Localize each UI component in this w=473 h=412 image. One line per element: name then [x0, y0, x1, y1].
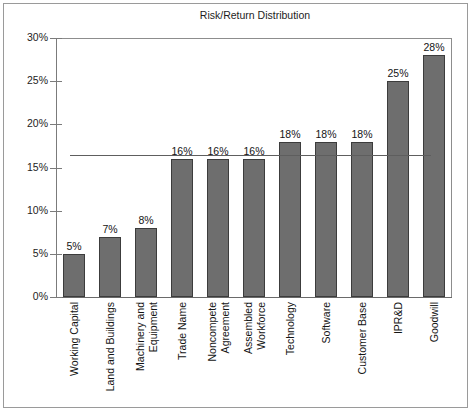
category-label: Software — [308, 302, 344, 406]
y-tick-label-text: 0% — [2, 291, 48, 302]
y-tick-label-text: 30% — [2, 32, 48, 43]
bar — [351, 142, 373, 297]
category-label: Trade Name — [164, 302, 200, 406]
bar — [135, 228, 157, 297]
bar — [423, 55, 445, 297]
category-label: Machinery andEquipment — [128, 302, 164, 406]
y-tick-mark — [50, 124, 62, 125]
y-tick-label-text: 10% — [2, 205, 48, 216]
category-label: NoncompeteAgreement — [200, 302, 236, 406]
bar-value-label: 8% — [122, 214, 170, 226]
bar-value-label: 28% — [410, 41, 458, 53]
y-tick-label: 20% — [0, 118, 48, 129]
y-tick-label: 5% — [0, 248, 48, 259]
category-label-text: Trade Name — [176, 302, 189, 360]
y-tick-label-text: 15% — [2, 162, 48, 173]
y-tick-label: 15% — [0, 162, 48, 173]
category-label: Customer Base — [344, 302, 380, 406]
category-label-text: Land and Buildings — [104, 302, 117, 391]
bar-value-label: 18% — [338, 128, 386, 140]
category-label: Working Capital — [56, 302, 92, 406]
y-tick-label: 10% — [0, 205, 48, 216]
y-tick-label: 30% — [0, 32, 48, 43]
category-label: AssembledWorkforce — [236, 302, 272, 406]
category-label: Goodwill — [416, 302, 452, 406]
bar-value-label: 5% — [50, 240, 98, 252]
y-tick-label-text: 25% — [2, 75, 48, 86]
bar-value-label: 25% — [374, 67, 422, 79]
y-tick-label-text: 20% — [2, 118, 48, 129]
y-tick-mark — [50, 211, 62, 212]
bar — [207, 159, 229, 297]
category-label: IPR&D — [380, 302, 416, 406]
category-label: Land and Buildings — [92, 302, 128, 406]
category-label-text: IPR&D — [392, 302, 405, 334]
category-label-text: Working Capital — [68, 302, 81, 376]
x-axis — [56, 297, 452, 298]
average-return-line — [70, 155, 431, 156]
y-tick-mark — [50, 168, 62, 169]
y-tick-label: 0% — [0, 291, 48, 302]
chart-title: Risk/Return Distribution — [60, 9, 450, 22]
bar — [279, 142, 301, 297]
category-label-text: Machinery andEquipment — [134, 302, 159, 371]
y-tick-label: 25% — [0, 75, 48, 86]
category-label-text: Goodwill — [428, 302, 441, 342]
bar — [171, 159, 193, 297]
bar — [99, 237, 121, 297]
bar — [63, 254, 85, 297]
category-label: Technology — [272, 302, 308, 406]
category-label-text: Technology — [284, 302, 297, 355]
chart-figure: Risk/Return Distribution 30%25%20%15%10%… — [0, 0, 473, 412]
bar — [387, 81, 409, 297]
y-tick-mark — [50, 297, 62, 298]
category-label-text: Customer Base — [356, 302, 369, 374]
y-tick-mark — [50, 254, 62, 255]
category-label-text: AssembledWorkforce — [242, 302, 267, 354]
bar — [315, 142, 337, 297]
category-label-text: NoncompeteAgreement — [206, 302, 231, 362]
y-tick-label-text: 5% — [2, 248, 48, 259]
y-tick-mark — [50, 81, 62, 82]
bar — [243, 159, 265, 297]
y-tick-mark — [50, 38, 62, 39]
category-label-text: Software — [320, 302, 333, 343]
